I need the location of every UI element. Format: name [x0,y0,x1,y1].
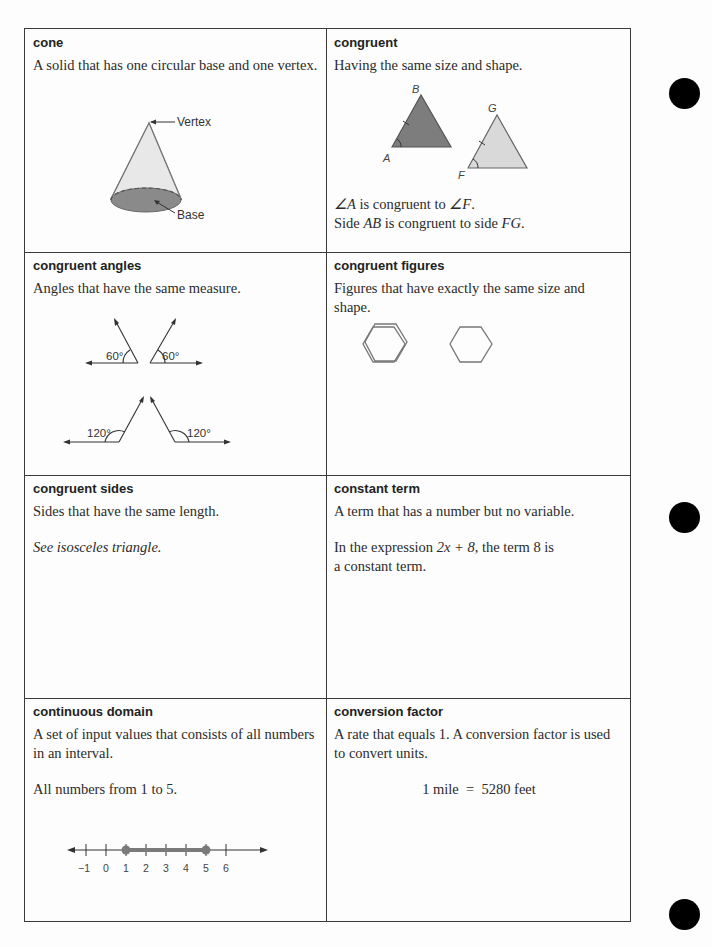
term-title: conversion factor [334,704,624,719]
term-title: continuous domain [33,704,318,719]
svg-text:120°: 120° [87,427,111,439]
see-also-link[interactable]: See isosceles triangle. [33,538,318,557]
congruent-angles-diagram: 60° 60° 120° 120° [25,302,325,472]
svg-text:60°: 60° [106,350,123,362]
base-label: Base [177,208,205,222]
entry-constant-term: constant term A term that has a number b… [326,475,632,698]
congruent-example: ∠A is congruent to ∠F. Side AB is congru… [334,195,525,233]
svg-text:5: 5 [203,862,209,874]
entry-continuous-domain: continuous domain A set of input values … [25,698,326,921]
svg-text:3: 3 [163,862,169,874]
svg-text:F: F [458,169,466,181]
term-title: congruent angles [33,258,318,273]
svg-text:60°: 60° [162,350,179,362]
vertex-label: Vertex [177,115,211,129]
term-title: congruent sides [33,481,318,496]
binder-hole-icon [669,502,700,533]
number-line-diagram: −1 0 1 2 3 4 5 6 [25,838,315,888]
svg-text:G: G [488,102,497,114]
svg-text:4: 4 [183,862,189,874]
conversion-example: 1 mile = 5280 feet [334,780,624,799]
term-definition: Having the same size and shape. [334,56,624,75]
binder-hole-icon [669,78,700,109]
entry-cone: cone A solid that has one circular base … [25,29,326,252]
svg-text:120°: 120° [187,427,211,439]
term-title: congruent figures [334,258,624,273]
term-title: constant term [334,481,624,496]
term-definition: A solid that has one circular base and o… [33,56,318,75]
svg-text:2: 2 [143,862,149,874]
binder-hole-icon [669,899,700,930]
entry-congruent-figures: congruent figures Figures that have exac… [326,252,632,475]
svg-text:B: B [412,83,419,95]
svg-text:6: 6 [223,862,229,874]
congruent-hexagons-diagram [326,312,626,412]
term-title: congruent [334,35,624,50]
svg-text:0: 0 [103,862,109,874]
term-example: All numbers from 1 to 5. [33,780,318,799]
svg-text:1: 1 [123,862,129,874]
term-definition: Sides that have the same length. [33,502,318,521]
entry-conversion-factor: conversion factor A rate that equals 1. … [326,698,632,921]
congruent-triangles-diagram: A B F G [326,81,626,181]
cone-diagram: Vertex Base [25,89,315,249]
entry-congruent-angles: congruent angles Angles that have the sa… [25,252,326,475]
term-definition: A set of input values that consists of a… [33,725,318,763]
entry-congruent: congruent Having the same size and shape… [326,29,632,252]
term-definition: A rate that equals 1. A conversion facto… [334,725,624,763]
glossary-grid: cone A solid that has one circular base … [24,28,631,922]
term-title: cone [33,35,318,50]
term-definition: Angles that have the same measure. [33,279,318,298]
svg-text:A: A [382,152,390,164]
svg-text:−1: −1 [78,862,90,874]
entry-congruent-sides: congruent sides Sides that have the same… [25,475,326,698]
term-definition: A term that has a number but no variable… [334,502,624,521]
term-example: In the expression 2x + 8, the term 8 is … [334,538,564,576]
